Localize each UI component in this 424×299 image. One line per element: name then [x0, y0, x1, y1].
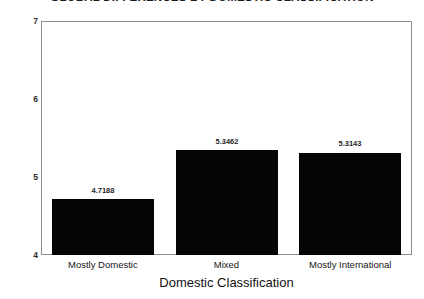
bar	[176, 150, 278, 255]
y-tick-label: 6	[8, 95, 38, 104]
x-axis-title: Domestic Classification	[41, 276, 412, 289]
bar-chart: GLOBAL DIFFERENCES BY DOMESTIC CLASSIFIC…	[0, 0, 424, 299]
x-tick-label: Mixed	[165, 260, 289, 270]
bar	[299, 153, 401, 256]
bar-value-label: 4.7188	[52, 187, 154, 195]
chart-title: GLOBAL DIFFERENCES BY DOMESTIC CLASSIFIC…	[0, 0, 424, 3]
bar	[52, 199, 154, 255]
x-tick-label: Mostly International	[288, 260, 412, 270]
y-axis: 4567	[0, 0, 38, 299]
bar-value-label: 5.3462	[176, 138, 278, 146]
y-tick-label: 4	[8, 251, 38, 260]
y-tick-label: 5	[8, 173, 38, 182]
x-tick-label: Mostly Domestic	[41, 260, 165, 270]
bar-value-label: 5.3143	[299, 140, 401, 148]
y-tick-label: 7	[8, 17, 38, 26]
